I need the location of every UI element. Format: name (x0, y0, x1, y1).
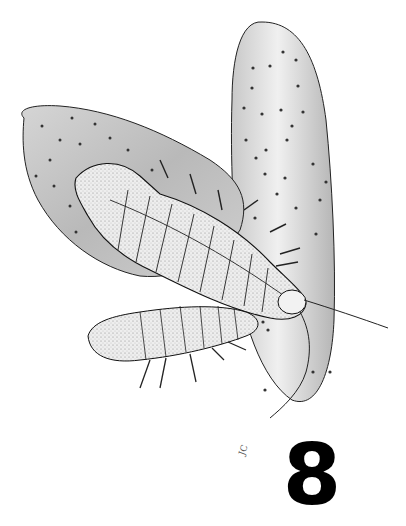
insect-cactus-illustration (0, 0, 406, 526)
cactus-pad-right (231, 22, 334, 402)
insect-small (88, 306, 258, 388)
figure-number: 8 (282, 430, 342, 520)
